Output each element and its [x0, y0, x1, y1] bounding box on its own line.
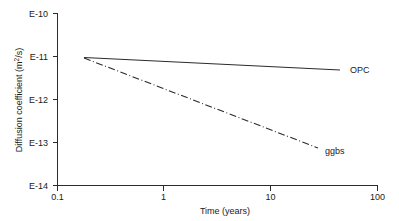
y-axis-title-text: Diffusion coefficient (m2/s)	[13, 48, 24, 152]
y-axis-title: Diffusion coefficient (m2/s)	[13, 48, 24, 152]
x-axis-title: Time (years)	[200, 206, 250, 216]
x-tick-label-0-1: 0.1	[51, 192, 64, 202]
y-tick-label-e10: E-10	[29, 9, 48, 19]
y-axis-title-end: /s)	[14, 48, 24, 58]
x-tick-label-10: 10	[265, 192, 275, 202]
y-tick-label-e12: E-12	[29, 95, 48, 105]
series-line-ggbs	[84, 58, 318, 148]
series-label-opc: OPC	[350, 65, 370, 75]
y-tick-label-e11: E-11	[30, 52, 48, 62]
axis-frame	[58, 13, 379, 186]
y-axis-title-main: Diffusion coefficient (m	[14, 61, 24, 152]
x-tick-label-100: 100	[370, 192, 385, 202]
series-label-ggbs: ggbs	[325, 146, 345, 156]
diffusion-coefficient-chart: E-10 E-11 E-12 E-13 E-14 0.1 1 10 100 Ti…	[0, 0, 399, 221]
y-tick-label-e14: E-14	[29, 181, 48, 191]
x-tick-label-1: 1	[161, 192, 166, 202]
y-tick-label-e13: E-13	[29, 138, 48, 148]
series-line-opc	[84, 58, 340, 71]
chart-container: E-10 E-11 E-12 E-13 E-14 0.1 1 10 100 Ti…	[0, 0, 399, 221]
